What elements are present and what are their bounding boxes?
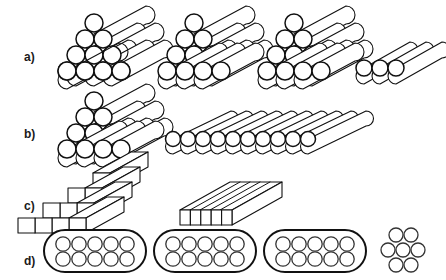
row-label-d: d)	[24, 254, 35, 268]
row-label-a: a)	[24, 50, 35, 64]
bar-pyramid-c1	[58, 152, 160, 218]
rod-pyramid-a2	[158, 6, 266, 82]
capsule-d1	[42, 228, 148, 274]
rod-row-b2	[166, 106, 346, 150]
capsule-d2	[152, 228, 258, 274]
capsule-d3	[262, 228, 368, 274]
bar-row-c2	[172, 178, 292, 234]
rod-pyramid-a1	[58, 6, 166, 82]
row-label-c: c)	[24, 199, 35, 213]
rod-pyramid-a3	[258, 6, 366, 82]
rod-row-a4	[356, 34, 440, 80]
row-label-b: b)	[24, 127, 35, 141]
hex-cluster-d4	[378, 226, 430, 276]
figure-canvas: a) b) c) d)	[0, 0, 446, 280]
rod-pyramid-b1	[58, 84, 166, 160]
